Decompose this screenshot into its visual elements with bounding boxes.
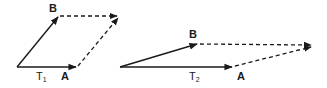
vertex-label-a-t2: A xyxy=(237,70,245,82)
vertex-label-b-t1: B xyxy=(49,2,57,14)
vector-diagram: B A T1 B A T2 xyxy=(0,0,327,88)
figure-t2: B A T2 xyxy=(120,28,311,83)
vector-b-t1 xyxy=(17,17,58,67)
figure-label-t2: T2 xyxy=(189,70,200,83)
vertex-label-a-t1: A xyxy=(61,70,69,82)
vertex-label-b-t2: B xyxy=(189,28,197,40)
dashed-a-to-resultant-t1 xyxy=(78,18,118,66)
figure-label-t1: T1 xyxy=(36,70,47,83)
dashed-b-to-resultant-t2 xyxy=(200,44,311,45)
vector-b-t2 xyxy=(120,44,197,67)
dashed-a-to-resultant-t2 xyxy=(235,47,311,66)
figure-t1: B A T1 xyxy=(17,2,118,83)
